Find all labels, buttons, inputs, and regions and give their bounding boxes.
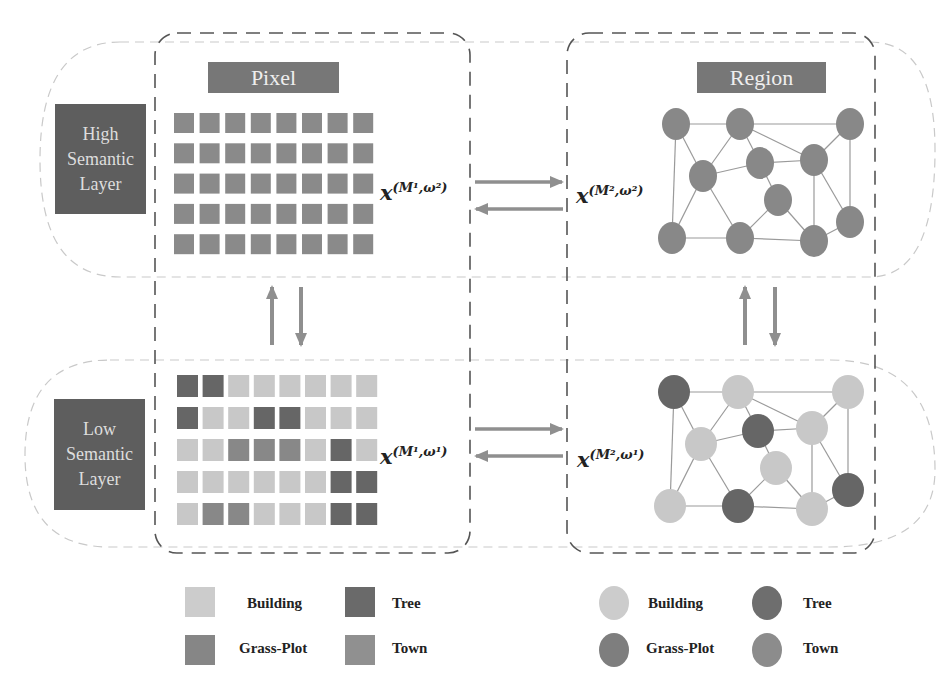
- pixel-cell: [302, 113, 322, 133]
- pixel-cell: [254, 503, 275, 525]
- pixel-cell: [251, 174, 271, 194]
- pixel-cell: [331, 471, 352, 493]
- region-node: [726, 222, 754, 254]
- low-semantic-layer-label: Low Semantic Layer: [54, 399, 145, 510]
- pixel-cell: [177, 375, 198, 397]
- pixel-cell: [353, 204, 373, 224]
- pixel-cell: [328, 234, 348, 254]
- graph-edge: [672, 124, 676, 238]
- pixel-cell: [353, 234, 373, 254]
- legend-label: Tree: [392, 595, 421, 612]
- pixel-cell: [279, 375, 300, 397]
- high-pixel-grid: [174, 113, 373, 254]
- legend-swatch-building-square: [185, 587, 215, 617]
- pixel-cell: [328, 204, 348, 224]
- region-node: [654, 489, 686, 523]
- legend-label: Building: [247, 595, 302, 612]
- pixel-cell: [225, 204, 245, 224]
- pixel-cell: [225, 234, 245, 254]
- pixel-cell: [328, 143, 348, 163]
- pixel-cell: [177, 407, 198, 429]
- region-column-box: [567, 33, 875, 553]
- diagram-canvas: Pixel Region High Semantic Layer Low Sem…: [0, 0, 937, 694]
- pixel-cell: [228, 407, 249, 429]
- legend-label: Town: [392, 640, 427, 657]
- pixel-cell: [356, 439, 377, 461]
- region-node: [685, 427, 717, 461]
- pixel-cell: [228, 439, 249, 461]
- pixel-cell: [302, 234, 322, 254]
- pixel-cell: [203, 503, 224, 525]
- pixel-cell: [276, 143, 296, 163]
- pixel-cell: [254, 407, 275, 429]
- region-column-title: Region: [697, 62, 826, 93]
- region-node: [796, 411, 828, 445]
- pixel-cell: [251, 204, 271, 224]
- pixel-cell: [356, 407, 377, 429]
- pixel-cell: [279, 503, 300, 525]
- region-node: [722, 489, 754, 523]
- pixel-cell: [225, 143, 245, 163]
- pixel-cell: [228, 503, 249, 525]
- pixel-cell: [279, 471, 300, 493]
- pixel-cell: [279, 439, 300, 461]
- pixel-cell: [279, 407, 300, 429]
- region-node: [689, 160, 717, 192]
- pixel-cell: [305, 407, 326, 429]
- pixel-cell: [305, 439, 326, 461]
- pixel-cell: [331, 375, 352, 397]
- pixel-cell: [254, 439, 275, 461]
- low-region-graph: [654, 375, 864, 526]
- pixel-cell: [174, 143, 194, 163]
- region-node: [836, 108, 864, 140]
- region-node: [662, 108, 690, 140]
- label-region-low: x(M²,ω¹): [577, 447, 645, 472]
- pixel-cell: [356, 503, 377, 525]
- pixel-cell: [302, 204, 322, 224]
- region-node: [746, 147, 774, 179]
- region-node: [726, 108, 754, 140]
- legend-label: Town: [803, 640, 838, 657]
- pixel-cell: [328, 113, 348, 133]
- legend-swatch-tree-circle: [752, 586, 782, 620]
- legend-swatch-town-square: [345, 635, 375, 665]
- low-layer-band: [25, 360, 935, 547]
- region-node: [760, 451, 792, 485]
- pixel-cell: [200, 143, 220, 163]
- pixel-cell: [356, 471, 377, 493]
- pixel-cell: [331, 503, 352, 525]
- region-node: [800, 225, 828, 257]
- pixel-cell: [225, 174, 245, 194]
- label-region-high: x(M²,ω²): [576, 183, 644, 208]
- pixel-cell: [228, 375, 249, 397]
- pixel-cell: [356, 375, 377, 397]
- pixel-cell: [251, 113, 271, 133]
- pixel-cell: [177, 471, 198, 493]
- high-layer-line: High: [67, 122, 134, 147]
- pixel-cell: [203, 407, 224, 429]
- pixel-cell: [353, 143, 373, 163]
- pixel-cell: [177, 439, 198, 461]
- high-layer-line: Semantic: [67, 147, 134, 172]
- low-layer-line: Semantic: [66, 442, 133, 467]
- pixel-cell: [203, 375, 224, 397]
- legend-label: Tree: [803, 595, 832, 612]
- pixel-cell: [225, 113, 245, 133]
- pixel-cell: [302, 174, 322, 194]
- region-node: [832, 473, 864, 507]
- legend-label: Grass-Plot: [646, 640, 714, 657]
- pixel-cell: [276, 204, 296, 224]
- low-layer-line: Layer: [66, 467, 133, 492]
- legend-label: Building: [648, 595, 703, 612]
- legend-swatch-grass-plot-circle: [599, 633, 629, 667]
- pixel-cell: [305, 503, 326, 525]
- pixel-cell: [200, 174, 220, 194]
- pixel-cell: [305, 375, 326, 397]
- pixel-cell: [331, 407, 352, 429]
- pixel-cell: [174, 234, 194, 254]
- region-node: [658, 375, 690, 409]
- region-node: [722, 375, 754, 409]
- pixel-cell: [174, 204, 194, 224]
- low-layer-line: Low: [66, 417, 133, 442]
- pixel-cell: [305, 471, 326, 493]
